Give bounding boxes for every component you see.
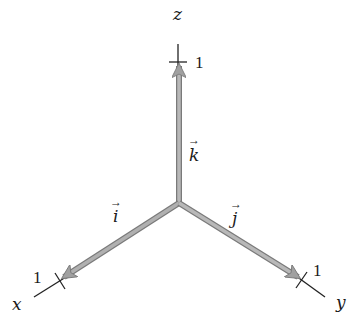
vector-j-label: → j	[228, 197, 242, 228]
svg-text:k: k	[189, 145, 199, 165]
vector-k-label: → k	[188, 133, 200, 165]
x-axis-label: x	[12, 294, 22, 314]
y-tick-label: 1	[313, 261, 322, 280]
z-axis	[169, 44, 187, 66]
svg-text:j: j	[228, 208, 238, 228]
x-tick-label: 1	[33, 268, 42, 287]
svg-text:i: i	[113, 206, 118, 226]
vector-j	[179, 203, 298, 277]
coordinate-diagram: z x y 1 1 1 → k → i → j	[0, 0, 359, 327]
y-axis-label: y	[335, 292, 346, 312]
z-axis-label: z	[172, 4, 183, 24]
vector-i-label: → i	[110, 195, 122, 226]
z-tick-label: 1	[195, 53, 204, 72]
vector-i	[64, 203, 179, 277]
